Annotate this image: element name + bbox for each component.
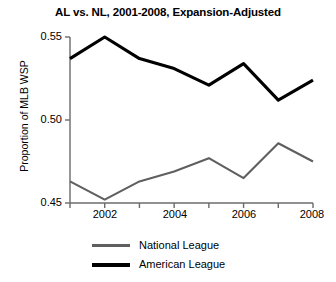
series-line-national-league xyxy=(70,143,313,199)
legend-item-american-league: American League xyxy=(0,255,336,274)
y-axis-ticks xyxy=(65,37,70,203)
x-axis-ticks xyxy=(70,203,313,208)
legend-label-american-league: American League xyxy=(139,259,225,270)
legend-swatch-american-league xyxy=(92,263,130,267)
chart-legend: National League American League xyxy=(0,236,336,274)
legend-item-national-league: National League xyxy=(0,236,336,255)
legend-label-national-league: National League xyxy=(139,240,219,251)
chart-container: AL vs. NL, 2001-2008, Expansion-Adjusted… xyxy=(0,0,336,282)
series-line-american-league xyxy=(70,37,313,100)
legend-swatch-national-league xyxy=(92,244,130,247)
axis-lines xyxy=(70,37,313,203)
